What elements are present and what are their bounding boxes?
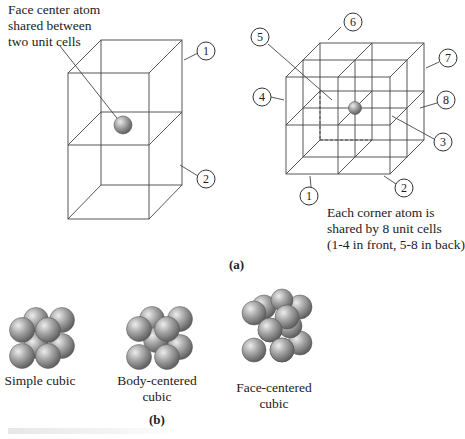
annotation-line: shared between bbox=[8, 18, 100, 34]
caption-line: cubic bbox=[112, 389, 202, 405]
cell-label-5: 5 bbox=[254, 29, 266, 45]
cell-label-1: 1 bbox=[303, 188, 315, 204]
cell-label-2: 2 bbox=[398, 180, 410, 196]
cell-label-6: 6 bbox=[347, 14, 359, 30]
cropped-figure-caption bbox=[8, 428, 178, 434]
face-center-annotation: Face center atom shared between two unit… bbox=[8, 2, 100, 50]
face-centered-caption: Face-centered cubic bbox=[229, 380, 319, 412]
simple-cubic-model bbox=[10, 308, 75, 369]
left-cell-labels bbox=[197, 42, 215, 188]
cell-label-8: 8 bbox=[440, 92, 452, 108]
caption-line: Body-centered bbox=[112, 373, 202, 389]
annotation-line: Each corner atom is bbox=[327, 205, 465, 221]
face-centered-cubic-model bbox=[242, 289, 312, 362]
face-center-atom bbox=[114, 116, 132, 134]
caption-line: Face-centered bbox=[229, 380, 319, 396]
cell-label-1: 1 bbox=[200, 43, 212, 59]
annotation-line: (1-4 in front, 5-8 in back) bbox=[327, 237, 465, 253]
annotation-line: shared by 8 unit cells bbox=[327, 221, 465, 237]
cell-label-7: 7 bbox=[442, 50, 454, 66]
body-centered-cubic-model bbox=[127, 307, 193, 370]
cell-label-4: 4 bbox=[256, 89, 268, 105]
caption-line: Simple cubic bbox=[0, 373, 80, 389]
caption-line: cubic bbox=[229, 396, 319, 412]
annotation-line: two unit cells bbox=[8, 34, 100, 50]
cell-label-2: 2 bbox=[200, 171, 212, 187]
body-centered-caption: Body-centered cubic bbox=[112, 373, 202, 405]
corner-atom-annotation: Each corner atom is shared by 8 unit cel… bbox=[327, 205, 465, 253]
panel-b-label: (b) bbox=[149, 412, 165, 428]
annotation-line: Face center atom bbox=[8, 2, 100, 18]
cell-label-3: 3 bbox=[437, 134, 449, 150]
panel-a-label: (a) bbox=[229, 257, 244, 273]
corner-atom bbox=[349, 102, 362, 115]
simple-cubic-caption: Simple cubic bbox=[0, 373, 80, 389]
